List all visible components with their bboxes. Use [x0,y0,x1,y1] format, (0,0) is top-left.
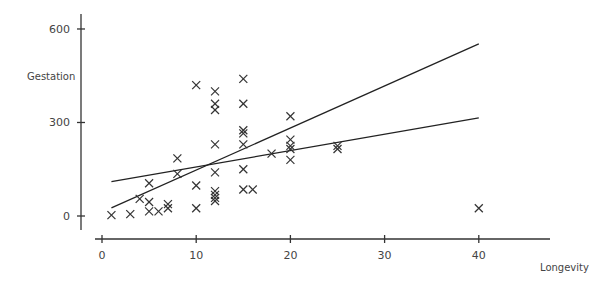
x-marker [211,187,219,195]
x-marker [286,112,294,120]
x-tick-label: 20 [283,249,297,262]
x-marker [164,204,172,212]
x-marker [107,211,115,219]
x-tick-label: 30 [378,249,392,262]
y-axis-title: Gestation [27,71,75,82]
y-tick-label: 0 [63,210,70,223]
x-marker [192,81,200,89]
x-marker [239,165,247,173]
x-marker [286,156,294,164]
x-marker [239,100,247,108]
fit-line-shallow [111,118,478,182]
x-marker [475,204,483,212]
regression-lines [111,44,478,208]
x-marker [145,198,153,206]
x-marker [173,154,181,162]
x-marker [145,179,153,187]
x-marker [211,87,219,95]
data-points [107,75,482,219]
x-marker [239,75,247,83]
y-tick-label: 300 [49,116,70,129]
x-tick-label: 0 [99,249,106,262]
x-marker [145,207,153,215]
x-tick-label: 10 [189,249,203,262]
y-axis-ticks: 0300600 [49,23,85,223]
x-marker [249,186,257,194]
x-tick-label: 40 [472,249,486,262]
x-marker [155,207,163,215]
x-marker [173,170,181,178]
y-tick-label: 600 [49,23,70,36]
x-marker [164,200,172,208]
x-axis-title: Longevity [540,262,589,273]
x-marker [192,204,200,212]
x-marker [192,181,200,189]
x-marker [126,210,134,218]
x-marker [211,106,219,114]
x-marker [239,186,247,194]
x-marker [211,140,219,148]
scatter-chart: 0300600 010203040 Gestation Longevity [0,0,595,290]
x-marker [239,140,247,148]
x-marker [136,195,144,203]
x-marker [211,168,219,176]
fit-line-steep [111,44,478,208]
